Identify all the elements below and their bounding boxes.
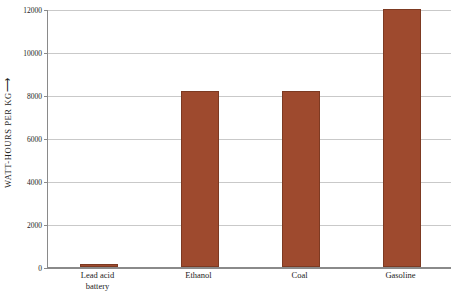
y-tick-label: 12000 — [23, 6, 42, 15]
y-tick-label: 4000 — [27, 178, 42, 187]
x-tick-label: Gasoline — [350, 270, 451, 281]
x-tick-label-line: Lead acid — [47, 270, 148, 281]
y-tick-label: 10000 — [23, 49, 42, 58]
bar-chart: WATT-HOURS PER KG⟶ 020004000600080001000… — [0, 0, 466, 308]
x-tick-label-line: Coal — [249, 270, 350, 281]
x-tick-label-line: Ethanol — [148, 270, 249, 281]
y-axis-title: WATT-HOURS PER KG⟶ — [2, 18, 13, 188]
bar — [181, 91, 219, 267]
y-tick-label: 6000 — [27, 135, 42, 144]
bar — [383, 9, 421, 267]
x-tick-label-line: battery — [47, 281, 148, 292]
x-tick-label: Ethanol — [148, 270, 249, 281]
x-axis-labels: Lead acidbatteryEthanolCoalGasoline — [47, 270, 451, 304]
plot-area: 020004000600080001000012000 — [47, 10, 451, 268]
x-tick-label: Coal — [249, 270, 350, 281]
y-tick-label: 2000 — [27, 221, 42, 230]
x-tick-label: Lead acidbattery — [47, 270, 148, 292]
gridline — [48, 268, 451, 269]
y-tick-label: 8000 — [27, 92, 42, 101]
x-tick-label-line: Gasoline — [350, 270, 451, 281]
y-axis-arrow-icon: ⟶ — [2, 78, 13, 92]
y-tick-mark — [44, 268, 48, 269]
y-tick-label: 0 — [38, 264, 42, 273]
bars — [48, 10, 451, 267]
bar — [80, 264, 118, 267]
bar — [282, 91, 320, 267]
y-axis-title-text: WATT-HOURS PER KG — [3, 92, 13, 188]
